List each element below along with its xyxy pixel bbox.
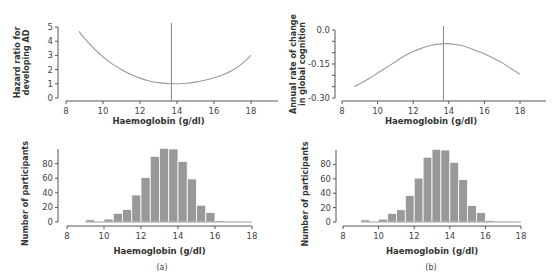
chart-cognition-change: 0.0-0.15-0.3081012141618Haemoglobin (g/d… (289, 13, 546, 126)
data-curve (354, 44, 520, 87)
histogram-bar (141, 177, 150, 222)
y-tick-label: 0 (48, 217, 53, 227)
histogram-bar (169, 149, 178, 222)
x-tick-label: 16 (210, 231, 221, 241)
y-axis-title-line: developing AD (22, 29, 31, 95)
x-tick-label: 8 (339, 106, 344, 116)
y-tick-label: 0.0 (316, 25, 330, 35)
histogram-bar (197, 205, 206, 222)
x-axis-title: Haemoglobin (g/dl) (385, 116, 477, 126)
y-tick-label: 2 (48, 65, 53, 75)
y-tick-label: 4 (48, 36, 53, 46)
x-tick-label: 18 (247, 231, 258, 241)
x-tick-label: 18 (516, 231, 527, 241)
y-axis-title: Hazard ratio fordeveloping AD (13, 27, 31, 99)
x-tick-label: 10 (373, 231, 384, 241)
histogram-bar (206, 213, 215, 222)
histogram-bar (160, 148, 169, 222)
data-curve (79, 31, 251, 84)
x-tick-label: 8 (340, 231, 345, 241)
y-axis-title-line: Hazard ratio for (13, 27, 22, 99)
y-tick-label: 80 (42, 159, 53, 169)
x-axis-title: Haemoglobin (g/dl) (112, 116, 204, 126)
y-tick-label: 80 (320, 159, 331, 169)
histogram-bar (104, 219, 113, 222)
histogram-bar (423, 157, 432, 222)
x-axis-title: Haemoglobin (g/dl) (113, 246, 205, 256)
y-tick-label: 60 (42, 173, 53, 183)
histogram-bar (388, 213, 397, 222)
histogram-bar (178, 161, 187, 222)
panel-label-a: (a) (156, 263, 167, 272)
histogram-bar (450, 162, 459, 222)
histogram-bar (379, 219, 388, 222)
figure-canvas: 01234581012141618Haemoglobin (g/dl)Hazar… (0, 0, 560, 279)
histogram-bar (123, 210, 132, 222)
x-tick-label: 14 (443, 106, 454, 116)
histogram-participants-b: 02040608081012141618Haemoglobin (g/dl)Nu… (301, 141, 526, 256)
y-tick-label: 3 (48, 50, 53, 60)
x-tick-label: 8 (64, 231, 69, 241)
histogram-bar (477, 213, 486, 222)
histogram-bar (432, 149, 441, 222)
histogram-bar (459, 180, 468, 222)
histogram-bar (132, 195, 141, 222)
y-axis-title: Annual rate of changein global cognition (289, 13, 307, 114)
panel-label-b: (b) (425, 263, 436, 272)
y-tick-label: 60 (320, 174, 331, 184)
histogram-bar (414, 178, 423, 222)
x-tick-label: 16 (209, 106, 220, 116)
histogram-participants-a: 02040608081012141618Haemoglobin (g/dl)Nu… (21, 141, 257, 256)
x-tick-label: 18 (246, 106, 257, 116)
x-tick-label: 16 (480, 231, 491, 241)
x-tick-label: 18 (515, 106, 526, 116)
histogram-bar (441, 150, 450, 222)
x-tick-label: 10 (372, 106, 383, 116)
x-tick-label: 14 (444, 231, 455, 241)
x-tick-label: 14 (172, 106, 183, 116)
histogram-bar (113, 213, 122, 222)
y-tick-label: -0.30 (308, 93, 330, 103)
x-tick-label: 12 (409, 231, 420, 241)
y-tick-label: 40 (42, 188, 53, 198)
y-tick-label: 1 (48, 79, 53, 89)
histogram-bar (405, 195, 414, 222)
y-axis-title-line: Annual rate of change (289, 13, 298, 114)
y-tick-label: -0.15 (308, 59, 330, 69)
y-axis-title-line: in global cognition (298, 22, 307, 106)
x-tick-label: 12 (408, 106, 419, 116)
histogram-bar (468, 205, 477, 222)
y-tick-label: 5 (48, 22, 53, 32)
y-tick-label: 0 (48, 93, 53, 103)
x-tick-label: 12 (136, 231, 147, 241)
figure: 01234581012141618Haemoglobin (g/dl)Hazar… (0, 0, 560, 279)
y-axis-title: Number of participants (301, 141, 310, 246)
histogram-bar (150, 156, 159, 222)
x-tick-label: 16 (479, 106, 490, 116)
x-tick-label: 8 (63, 106, 68, 116)
x-tick-label: 14 (173, 231, 184, 241)
chart-hazard-ratio: 01234581012141618Haemoglobin (g/dl)Hazar… (13, 22, 278, 126)
y-tick-label: 40 (320, 188, 331, 198)
y-tick-label: 20 (42, 202, 53, 212)
x-tick-label: 12 (135, 106, 146, 116)
y-axis-title: Number of participants (21, 141, 30, 246)
x-axis-title: Haemoglobin (g/dl) (386, 246, 478, 256)
histogram-bar (187, 179, 196, 222)
x-tick-label: 10 (99, 231, 110, 241)
y-tick-label: 0 (326, 217, 331, 227)
x-tick-label: 10 (98, 106, 109, 116)
histogram-bar (396, 210, 405, 222)
y-tick-label: 20 (320, 203, 331, 213)
